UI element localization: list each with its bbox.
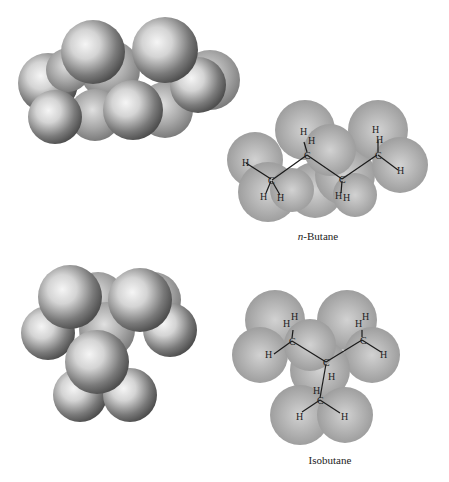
atom-h: H <box>308 135 315 146</box>
atom-h: H <box>242 157 249 168</box>
atom-c: C <box>304 150 311 161</box>
atom-c: C <box>375 150 382 161</box>
figure: H C H H H H C C H H H H C H <box>0 0 449 482</box>
atom-h: H <box>296 411 303 422</box>
atom-h: H <box>343 192 350 203</box>
atom-h: H <box>397 165 404 176</box>
atom-c: C <box>339 174 346 185</box>
atom-c: C <box>360 335 367 346</box>
atom-h: H <box>283 318 290 329</box>
atom-h: H <box>277 192 284 203</box>
n-butane-electron-cloud <box>227 100 428 222</box>
butane-suffix: -Butane <box>303 230 338 242</box>
isobutane-structural-model: H H C H H H C H C H H C H H <box>232 290 400 445</box>
atom-h: H <box>265 349 272 360</box>
atom-h: H <box>380 349 387 360</box>
atom-h: H <box>328 371 335 382</box>
atom-h: H <box>335 190 342 201</box>
n-butane-caption: n-Butane <box>268 230 368 242</box>
atom-c: C <box>268 175 275 186</box>
atom-c: C <box>323 357 330 368</box>
atom-h: H <box>260 191 267 202</box>
isobutane-space-filling-model <box>21 265 197 422</box>
atom-h: H <box>376 134 383 145</box>
atom-h: H <box>300 126 307 137</box>
atom-h: H <box>291 311 298 322</box>
isobutane-electron-cloud <box>232 290 400 445</box>
n-butane-space-filling-model <box>18 17 240 144</box>
n-butane-structural-model: H C H H H H C C H H H H C H <box>227 100 428 222</box>
atom-h: H <box>362 311 369 322</box>
atom-c: C <box>289 336 296 347</box>
atom-c: C <box>317 395 324 406</box>
isobutane-caption: Isobutane <box>280 454 380 466</box>
figure-svg: H C H H H H C C H H H H C H <box>0 0 449 482</box>
atom-h: H <box>341 411 348 422</box>
